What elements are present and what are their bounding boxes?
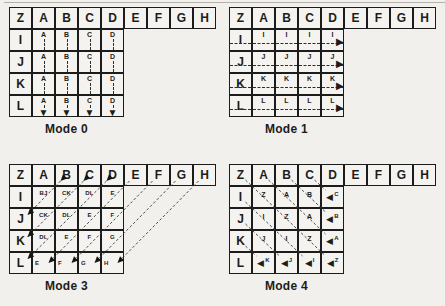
cell-letter: K [299, 75, 320, 82]
left-arrow-icon: ◀Z [322, 253, 343, 273]
header-letter: A [33, 8, 54, 28]
row-label-letter: I [230, 30, 251, 50]
grid-cell: ◀A [321, 230, 344, 252]
dashed-flow-line [253, 109, 274, 110]
cell-letter: H [104, 260, 109, 266]
cell-letter: I [253, 31, 274, 38]
cell-letter: J [276, 53, 297, 60]
dashed-flow-line [230, 87, 251, 88]
header-letter: A [253, 165, 274, 185]
header-letter: F [368, 165, 389, 185]
header-letter: Z [10, 8, 31, 28]
cell-letter: J [289, 257, 292, 263]
header-cell: D [101, 164, 124, 186]
grid-cell: H [101, 252, 124, 274]
grid-cell: L [275, 95, 298, 117]
header-cell: F [367, 164, 390, 186]
header-letter: C [79, 165, 100, 185]
row-label-cell: I [9, 186, 32, 208]
dashed-flow-line [44, 39, 45, 50]
grid-cell: Z [275, 208, 298, 230]
down-arrow-icon: ▼ [33, 108, 54, 117]
dashed-flow-line [299, 65, 320, 66]
cell-letter: F [79, 234, 100, 240]
cell-letter: G [102, 234, 123, 240]
header-cell: F [367, 7, 390, 29]
grid-cell: D [101, 29, 124, 51]
header-cell: G [390, 164, 413, 186]
cell-letter: J [299, 53, 320, 60]
dashed-flow-line [253, 87, 274, 88]
cell-letter: A [299, 213, 320, 220]
grid-cell: L▶ [321, 95, 344, 117]
grid-cell: ◀J [275, 252, 298, 274]
row-label-cell: J [229, 51, 252, 73]
header-letter: G [171, 165, 192, 185]
grid-cell: J▶ [321, 51, 344, 73]
mode-4-grid: Mode 4 ZABCDEFGHIJKLZAB◀CIZA◀BJIZ◀A◀K◀J◀… [229, 164, 436, 304]
cell-letter: I [253, 213, 274, 220]
cell-letter: C [79, 75, 100, 82]
header-letter: D [322, 165, 343, 185]
left-arrow-icon: ◀C [322, 187, 343, 207]
grid-cell: E [32, 252, 55, 274]
row-label-letter: K [10, 74, 31, 94]
header-letter: C [79, 8, 100, 28]
cell-letter: BJ [33, 190, 54, 196]
grid-cell: K [252, 73, 275, 95]
grid-cell: B▼ [55, 95, 78, 117]
dashed-flow-line [90, 83, 91, 94]
cell-letter: CK [56, 190, 77, 196]
cell-letter: DL [56, 212, 77, 218]
grid-cell: C [78, 29, 101, 51]
dashed-flow-line [276, 87, 297, 88]
header-cell: A [32, 7, 55, 29]
grid-cell: G [101, 230, 124, 252]
cell-letter: C [79, 97, 100, 104]
header-letter: E [345, 165, 366, 185]
cell-letter: E [79, 212, 100, 218]
header-cell: D [321, 164, 344, 186]
grid-cell: J [298, 51, 321, 73]
grid-cell: J [275, 51, 298, 73]
header-cell: C [298, 164, 321, 186]
cell-letter: K [265, 257, 269, 263]
cell-letter: A [33, 97, 54, 104]
cell-letter: B [56, 75, 77, 82]
header-cell: F [147, 164, 170, 186]
grid-cell: I [275, 230, 298, 252]
grid-cell: D [101, 73, 124, 95]
down-arrow-icon: ▼ [56, 108, 77, 117]
cell-letter: I [299, 31, 320, 38]
row-label-cell: L [229, 95, 252, 117]
left-arrow-icon: ◀A [322, 231, 343, 251]
grid-cell: B [55, 51, 78, 73]
header-letter: E [345, 8, 366, 28]
header-cell: H [193, 7, 216, 29]
grid-cell: D [101, 51, 124, 73]
cell-letter: Z [335, 257, 339, 263]
grid-cell: J [252, 230, 275, 252]
header-cell: E [124, 164, 147, 186]
mode-3-grid: Mode 3 ZABCDEFGHIJKLBJCKDLECKDLEFDLEFGEF… [9, 164, 216, 304]
row-label-letter: K [230, 74, 251, 94]
header-cell: D [321, 7, 344, 29]
cell-letter: D [102, 75, 123, 82]
row-label-letter: J [10, 52, 31, 72]
header-letter: H [194, 8, 215, 28]
grid-cell: K [275, 73, 298, 95]
left-arrow-icon: ◀K [253, 253, 274, 273]
grid-cell: A [298, 208, 321, 230]
header-letter: F [148, 8, 169, 28]
header-cell: B [275, 7, 298, 29]
cell-letter: Z [253, 191, 274, 198]
header-cell: H [413, 7, 436, 29]
grid-cell: C [78, 73, 101, 95]
header-cell: G [170, 7, 193, 29]
cell-letter: J [253, 235, 274, 242]
cell-letter: Z [299, 235, 320, 242]
header-letter: B [276, 8, 297, 28]
mode-1-caption: Mode 1 [229, 122, 344, 136]
dashed-flow-line [299, 43, 320, 44]
row-label-letter: K [10, 231, 31, 251]
